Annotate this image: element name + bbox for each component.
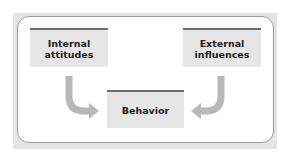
node-external-influences: External influences [183,28,261,67]
arrow-external-to-behavior [191,76,221,119]
node-label: Internal [45,38,94,49]
node-label: attitudes [45,49,94,60]
node-behavior: Behavior [107,90,184,128]
arrow-internal-to-behavior [69,76,99,119]
node-label: influences [195,49,250,60]
arrows-layer [0,0,290,156]
node-label: Behavior [122,105,170,116]
node-label: External [195,38,250,49]
node-internal-attitudes: Internal attitudes [30,28,108,67]
